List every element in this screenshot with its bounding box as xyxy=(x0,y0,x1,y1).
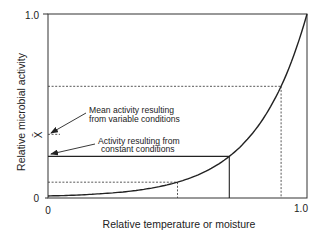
x-tick-zero: 0 xyxy=(45,205,51,216)
y-axis-title: Relative microbial activity xyxy=(15,52,27,171)
activity-curve xyxy=(48,14,307,196)
plot-frame xyxy=(48,14,307,198)
x-axis-title: Relative temperature or moisture xyxy=(103,218,256,230)
constant-annotation-line2: constant conditions xyxy=(101,144,175,154)
y-tick-top: 1.0 xyxy=(25,10,39,21)
mean-annotation-arrow xyxy=(51,113,86,133)
chart-figure: 1.0 0 0 1.0 Relative temperature or mois… xyxy=(0,0,329,236)
y-tick-zero: 0 xyxy=(33,193,39,204)
constant-annotation-arrow xyxy=(51,144,95,154)
x-tick-right: 1.0 xyxy=(294,203,308,214)
chart-svg: 1.0 0 0 1.0 Relative temperature or mois… xyxy=(0,0,329,236)
mean-annotation-line2: from variable conditions xyxy=(89,114,180,124)
mean-symbol-label: X̄ xyxy=(32,131,44,138)
